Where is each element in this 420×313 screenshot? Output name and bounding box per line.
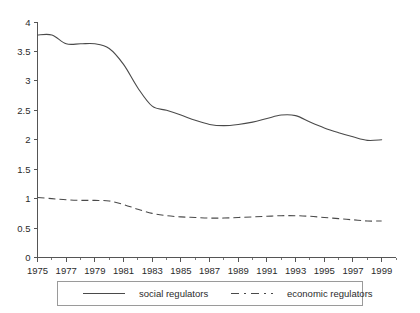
chart-legend: social regulators economic regulators bbox=[58, 282, 373, 306]
legend-label-social-regulators: social regulators bbox=[139, 288, 208, 299]
y-tick-label: 4 bbox=[25, 17, 30, 28]
x-tick-label: 1981 bbox=[113, 265, 134, 276]
chart-figure: 00.511.522.533.54 1975197719791981198319… bbox=[0, 0, 420, 313]
y-tick-label: 3.5 bbox=[17, 46, 30, 57]
x-tick-label: 1985 bbox=[170, 265, 191, 276]
series-line-economic-regulators bbox=[38, 197, 382, 221]
y-tick-label: 0.5 bbox=[17, 223, 30, 234]
legend-label-economic-regulators: economic regulators bbox=[287, 288, 373, 299]
chart-series-group bbox=[38, 34, 382, 221]
x-tick-label: 1993 bbox=[285, 265, 306, 276]
y-axis-ticks: 00.511.522.533.54 bbox=[17, 17, 37, 264]
y-tick-label: 0 bbox=[25, 252, 30, 263]
x-tick-label: 1979 bbox=[84, 265, 105, 276]
y-tick-label: 2.5 bbox=[17, 105, 30, 116]
x-axis-ticks: 1975197719791981198319851987198919911993… bbox=[27, 258, 396, 276]
x-tick-label: 1987 bbox=[199, 265, 220, 276]
x-tick-label: 1997 bbox=[342, 265, 363, 276]
y-tick-label: 3 bbox=[25, 75, 30, 86]
x-tick-label: 1991 bbox=[256, 265, 277, 276]
chart-axes bbox=[38, 22, 397, 258]
y-tick-label: 2 bbox=[25, 134, 30, 145]
y-tick-label: 1.5 bbox=[17, 164, 30, 175]
x-tick-label: 1989 bbox=[228, 265, 249, 276]
series-line-social-regulators bbox=[38, 34, 382, 140]
x-tick-label: 1975 bbox=[27, 265, 48, 276]
x-tick-label: 1995 bbox=[314, 265, 335, 276]
line-chart: 00.511.522.533.54 1975197719791981198319… bbox=[0, 0, 420, 313]
x-tick-label: 1999 bbox=[371, 265, 392, 276]
x-tick-label: 1977 bbox=[56, 265, 77, 276]
y-tick-label: 1 bbox=[25, 193, 30, 204]
x-tick-label: 1983 bbox=[142, 265, 163, 276]
